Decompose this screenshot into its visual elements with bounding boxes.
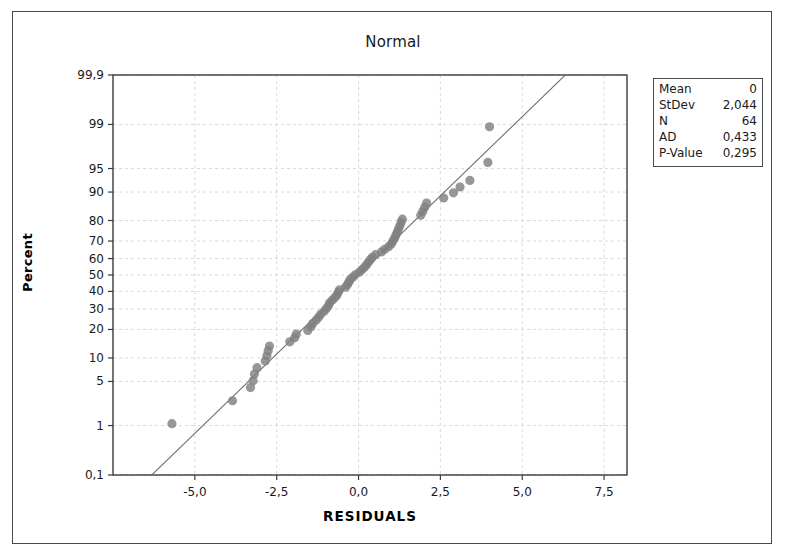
data-point <box>252 363 261 372</box>
data-point <box>398 215 407 224</box>
statistic-value: 0 <box>714 82 757 98</box>
data-point <box>292 329 301 338</box>
y-tick-label: 70 <box>89 234 104 248</box>
normal-probability-plot-figure: Normal -5,0-2,50,02,55,07,50,11510203040… <box>0 0 786 559</box>
statistic-value: 2,044 <box>714 98 757 114</box>
data-point <box>228 396 237 405</box>
statistics-row: Mean0 <box>659 82 757 98</box>
data-point <box>439 193 448 202</box>
y-tick-label: 1 <box>96 419 104 433</box>
data-point <box>455 182 464 191</box>
statistic-label: P-Value <box>659 146 714 162</box>
statistic-label: Mean <box>659 82 714 98</box>
x-tick-label: 2,5 <box>431 485 450 499</box>
x-tick-label: 5,0 <box>513 485 532 499</box>
data-point <box>485 122 494 131</box>
data-point <box>422 198 431 207</box>
y-tick-label: 99 <box>89 117 104 131</box>
y-tick-label: 50 <box>89 268 104 282</box>
statistic-value: 64 <box>714 114 757 130</box>
statistic-label: N <box>659 114 714 130</box>
y-tick-label: 60 <box>89 252 104 266</box>
x-tick-label: -5,0 <box>183 485 206 499</box>
data-point <box>483 158 492 167</box>
y-tick-label: 20 <box>89 322 104 336</box>
y-axis-label: Percent <box>20 213 35 313</box>
x-axis-label: RESIDUALS <box>113 508 627 524</box>
y-tick-label: 99,9 <box>77 68 104 82</box>
statistics-table: Mean0StDev2,044N64AD0,433P-Value0,295 <box>659 82 757 162</box>
statistic-value: 0,433 <box>714 130 757 146</box>
statistics-row: P-Value0,295 <box>659 146 757 162</box>
y-tick-label: 0,1 <box>85 468 104 482</box>
x-tick-label: -2,5 <box>265 485 288 499</box>
y-tick-label: 95 <box>89 162 104 176</box>
statistics-legend-box: Mean0StDev2,044N64AD0,433P-Value0,295 <box>653 78 763 167</box>
y-tick-label: 40 <box>89 284 104 298</box>
data-point <box>465 176 474 185</box>
y-tick-label: 5 <box>96 374 104 388</box>
statistic-label: StDev <box>659 98 714 114</box>
gridlines <box>113 75 627 475</box>
y-tick-label: 10 <box>89 351 104 365</box>
data-point <box>265 341 274 350</box>
x-tick-label: 0,0 <box>349 485 368 499</box>
plot-frame <box>113 75 627 475</box>
y-tick-label: 30 <box>89 302 104 316</box>
x-tick-label: 7,5 <box>595 485 614 499</box>
statistic-label: AD <box>659 130 714 146</box>
data-point <box>167 419 176 428</box>
statistic-value: 0,295 <box>714 146 757 162</box>
statistics-row: StDev2,044 <box>659 98 757 114</box>
y-tick-label: 80 <box>89 214 104 228</box>
statistics-row: N64 <box>659 114 757 130</box>
statistics-row: AD0,433 <box>659 130 757 146</box>
y-tick-label: 90 <box>89 185 104 199</box>
